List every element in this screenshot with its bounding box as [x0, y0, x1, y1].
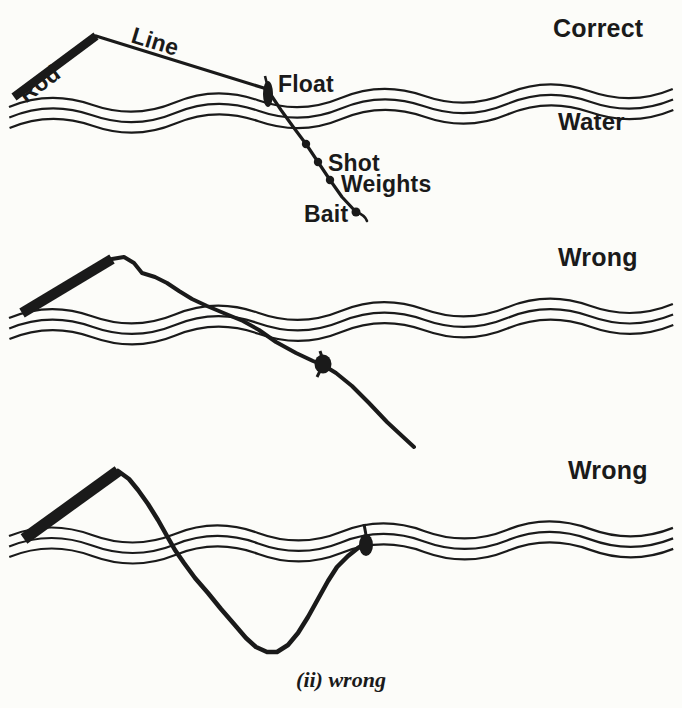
panel-wrong-slack: Wrong	[9, 243, 674, 447]
fishing-float-diagram: Rod Line Float Water Shot Weights Bait C…	[0, 0, 682, 708]
float-marker	[359, 534, 373, 556]
wave-line	[9, 530, 673, 554]
panel-correct: Rod Line Float Water Shot Weights Bait C…	[9, 14, 674, 227]
verdict-wrong-2: Wrong	[568, 456, 648, 484]
label-bait: Bait	[304, 201, 348, 227]
shot-weight-dot	[314, 158, 322, 166]
float-tip	[320, 351, 322, 357]
water-waves-middle	[9, 296, 674, 347]
rod-shape	[22, 259, 112, 313]
label-float: Float	[278, 71, 334, 97]
label-weights: Weights	[341, 171, 431, 197]
float-tip	[265, 76, 267, 84]
fishing-line-path	[112, 257, 414, 447]
verdict-correct: Correct	[553, 14, 644, 42]
panel-wrong-sunk: Wrong	[9, 456, 673, 652]
diagram-canvas: Rod Line Float Water Shot Weights Bait C…	[0, 0, 682, 708]
bait-hook-tail	[356, 212, 367, 221]
float-marker	[315, 355, 332, 374]
float-marker	[263, 81, 273, 107]
verdict-wrong-1: Wrong	[558, 243, 638, 271]
shot-weight-dot	[326, 176, 334, 184]
wave-line	[9, 520, 673, 544]
float-base	[317, 371, 320, 377]
water-waves-bottom	[9, 520, 673, 565]
figure-caption: (ii) wrong	[296, 667, 386, 692]
label-water: Water	[558, 108, 625, 135]
fishing-line-path	[96, 36, 356, 212]
shot-weight-dot	[302, 140, 310, 148]
float-tip	[364, 524, 366, 535]
